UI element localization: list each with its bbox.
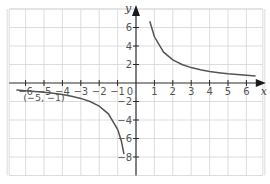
origin-label: 0 (127, 86, 133, 97)
x-tick-label: 6 (243, 86, 249, 97)
x-axis-label: x (261, 85, 268, 98)
hyperbola-chart: −6−5−4−3−2−1123456642−2−4−6−80yx(−5, −1) (0, 0, 270, 184)
x-tick-label: 5 (225, 86, 231, 97)
x-tick-label: 3 (188, 86, 194, 97)
y-tick-label: −2 (117, 96, 132, 107)
x-tick-label: 2 (170, 86, 176, 97)
y-tick-label: 4 (126, 41, 132, 52)
y-tick-label: −4 (117, 115, 132, 126)
x-tick-label: 1 (151, 86, 157, 97)
y-axis-arrow-icon (132, 5, 140, 16)
x-tick-label: −2 (92, 86, 107, 97)
x-tick-label: −3 (73, 86, 88, 97)
y-tick-label: −6 (117, 133, 132, 144)
point-annotation: (−5, −1) (23, 92, 64, 103)
y-tick-label: −8 (117, 152, 132, 163)
y-tick-label: 6 (126, 22, 132, 33)
y-tick-label: 2 (126, 59, 132, 70)
y-axis-label: y (124, 2, 132, 15)
curve-positive-branch (150, 21, 256, 76)
x-tick-label: 4 (206, 86, 212, 97)
